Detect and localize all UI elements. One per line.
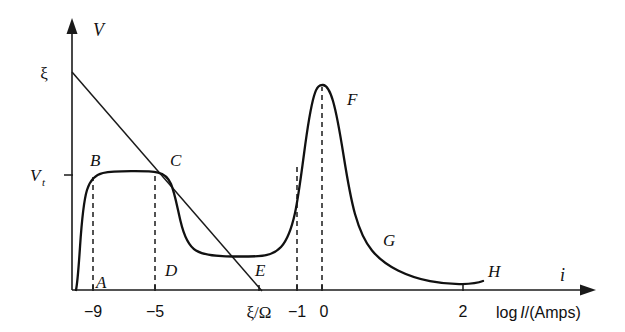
x-tick-label-2: 2 [459,303,468,320]
x-axis-arrowhead [580,285,596,296]
figure-root: V i ξ V t −9 −5 ξ/Ω −1 0 2 logI/(Amps) A… [0,0,625,332]
curve-label-D: D [164,261,178,280]
x-axis-caption-suffix: /(Amps) [525,304,581,321]
curve-label-A: A [95,273,107,292]
svg-text:logI/(Amps): logI/(Amps) [496,304,581,321]
x-tick-label--9: −9 [84,303,102,320]
dashed-verticals-group [93,87,322,289]
curve-label-B: B [90,151,101,170]
y-tick-label-vt-subscript: t [42,176,46,188]
discharge-characteristic-chart: V i ξ V t −9 −5 ξ/Ω −1 0 2 logI/(Amps) A… [0,0,625,332]
y-axis-name-label: V [93,20,106,40]
y-tick-label-vt: V t [30,166,46,188]
x-axis-caption: logI/(Amps) [496,304,581,321]
curve-label-F: F [346,90,358,109]
y-axis-arrowhead [67,18,78,34]
x-tick-label--5: −5 [146,303,164,320]
x-tick-label-xi-over-omega: ξ/Ω [247,303,272,322]
x-axis-name-label: i [560,265,565,285]
discharge-curve [76,85,483,290]
curve-label-E: E [254,261,266,280]
axes-group [64,18,596,296]
load-line [72,72,262,291]
curve-label-H: H [487,262,502,281]
x-tick-label--1: −1 [288,303,306,320]
x-tick-label-0: 0 [320,303,329,320]
x-axis-caption-prefix: log [496,304,517,321]
y-tick-label-xi: ξ [40,64,48,83]
curve-label-C: C [170,151,182,170]
curve-label-G: G [383,231,395,250]
